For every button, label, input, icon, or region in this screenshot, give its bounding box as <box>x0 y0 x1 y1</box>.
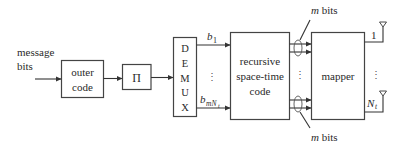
b1-label: b 1 <box>207 30 217 45</box>
demux-block: D E M U X <box>174 38 197 117</box>
bit-group-ellipse-top <box>294 40 302 56</box>
svg-text:space-time: space-time <box>236 70 284 82</box>
svg-text:Π: Π <box>132 71 141 85</box>
svg-text:outer: outer <box>71 66 94 78</box>
bits-ellipsis: ⋮ <box>207 71 217 82</box>
svg-text:recursive: recursive <box>240 55 280 67</box>
svg-text:U: U <box>181 87 189 98</box>
svg-text:N: N <box>366 97 375 109</box>
antenna-ellipsis: ⋮ <box>371 69 381 80</box>
svg-text:mN: mN <box>206 99 217 108</box>
bit-group-ellipse-bottom <box>294 96 302 112</box>
svg-text:X: X <box>181 102 189 113</box>
svg-text:1: 1 <box>213 36 217 45</box>
antenna-icon <box>380 91 387 96</box>
m-bits-bottom-label: m bits <box>311 131 338 143</box>
antenna-icon <box>380 22 387 27</box>
bmnt-label: b mN t <box>200 93 220 109</box>
svg-text:M: M <box>180 73 190 84</box>
space-time-encoder-block-diagram: message bits outer code Π D E M U X b 1 … <box>0 0 405 147</box>
interleaver-block: Π <box>123 65 152 90</box>
outer-code-block: outer code <box>62 61 104 98</box>
svg-text:D: D <box>181 43 189 54</box>
recursive-space-time-code-block: recursive space-time code <box>231 33 290 120</box>
svg-text:E: E <box>182 58 188 69</box>
mapper-block: mapper <box>312 33 365 120</box>
svg-text:mapper: mapper <box>322 70 355 82</box>
svg-text:bits: bits <box>17 60 33 72</box>
svg-text:code: code <box>250 85 271 97</box>
m-bits-ellipsis: ⋮ <box>295 69 305 80</box>
svg-text:code: code <box>72 81 93 93</box>
m-bits-top-label: m bits <box>311 4 338 16</box>
message-bits-label: message bits <box>17 46 54 72</box>
svg-text:t: t <box>375 102 378 111</box>
antenna-1-output: 1 <box>365 22 387 42</box>
svg-text:message: message <box>17 46 54 58</box>
svg-text:1: 1 <box>371 29 377 41</box>
antenna-nt-output: N t <box>365 91 387 112</box>
